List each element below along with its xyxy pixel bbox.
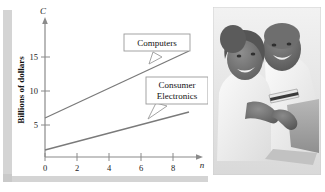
callout-consumer-label-line1: Consumer: [159, 80, 196, 90]
line-chart-panel: 15 10 5 0 2 4 6 8 C n Year Billions of d…: [12, 2, 208, 176]
y-axis-title: Billions of dollars: [16, 56, 26, 124]
figure-frame-corner: [3, 174, 12, 182]
chart-svg: 15 10 5 0 2 4 6 8 C n Year Billions of d…: [12, 2, 208, 176]
x-tick-label-8: 8: [171, 163, 175, 173]
x-axis-title: Year: [108, 174, 125, 176]
photo-woman-hair-volume: [220, 25, 246, 53]
y-axis-variable-label: C: [40, 6, 47, 16]
y-tick-label-15: 15: [30, 52, 39, 62]
callout-consumer-electronics: Consumer Electronics: [146, 77, 208, 119]
y-axis: [42, 17, 48, 157]
x-tick-label-4: 4: [107, 163, 112, 173]
callout-consumer-label-line2: Electronics: [157, 91, 198, 101]
photo-woman-eye-left: [237, 55, 242, 58]
photo-man-eye-left: [272, 43, 277, 46]
series-line-consumer-electronics: [45, 112, 189, 150]
photo-man-hair: [264, 23, 300, 49]
x-axis: [45, 154, 203, 160]
photograph-couple-shopping-online: [213, 7, 321, 175]
y-tick-label-10: 10: [30, 86, 39, 96]
callout-computers-label: Computers: [137, 38, 177, 48]
figure-frame-left: [3, 10, 12, 182]
photo-woman-eye-right: [251, 53, 256, 56]
x-tick-label-6: 6: [139, 163, 143, 173]
photo-svg: [213, 7, 321, 175]
callout-computers: Computers: [124, 34, 190, 64]
y-tick-label-5: 5: [34, 120, 38, 130]
x-tick-label-0: 0: [43, 163, 47, 173]
photo-man-eye-right: [287, 42, 292, 45]
figure-root: 15 10 5 0 2 4 6 8 C n Year Billions of d…: [0, 0, 325, 192]
x-tick-label-2: 2: [75, 163, 79, 173]
x-axis-variable-label: n: [200, 160, 205, 170]
